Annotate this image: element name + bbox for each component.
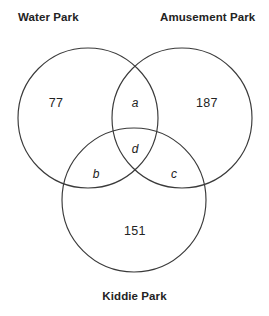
set-label-water-park: Water Park	[18, 11, 79, 23]
region-value-water-kiddie: b	[93, 167, 100, 181]
region-value-amusement-only: 187	[196, 96, 218, 110]
region-value-amusement-kiddie: c	[171, 167, 177, 181]
region-value-water-only: 77	[49, 96, 64, 110]
circle-amusement-park	[112, 48, 252, 188]
venn-diagram: Water Park Amusement Park Kiddie Park 77…	[0, 0, 269, 316]
region-value-kiddie-only: 151	[124, 224, 146, 238]
venn-circles-graphic	[0, 0, 269, 316]
region-value-water-amusement: a	[132, 96, 139, 110]
circle-water-park	[18, 48, 158, 188]
set-label-amusement-park: Amusement Park	[160, 11, 255, 23]
set-label-kiddie-park: Kiddie Park	[0, 290, 269, 302]
region-value-all-three: d	[132, 142, 139, 156]
